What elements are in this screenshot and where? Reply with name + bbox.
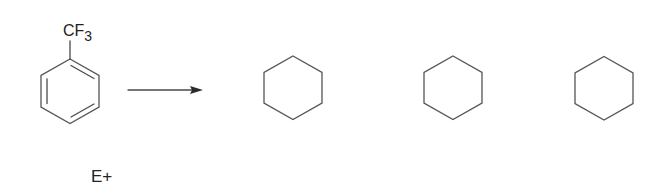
double-bond-top-right xyxy=(71,66,94,79)
cf3-label: CF3 xyxy=(63,22,92,44)
product-ring-3 xyxy=(575,57,633,121)
reagent-label: E+ xyxy=(91,167,112,186)
reactant-benzene: CF3 xyxy=(41,22,99,124)
benzene-ring xyxy=(41,59,99,124)
double-bond-bottom-right xyxy=(71,104,94,117)
reaction-arrow xyxy=(128,86,203,94)
product-ring-2 xyxy=(424,56,482,120)
reaction-scheme: CF3 E+ xyxy=(0,0,672,195)
product-ring-1 xyxy=(264,56,322,120)
